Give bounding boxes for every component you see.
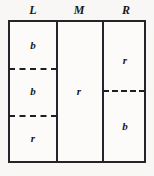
dashed-divider-left-lower (9, 115, 57, 117)
cell-label-left-2: b (24, 84, 42, 98)
column-header-right: R (116, 2, 136, 18)
dashed-divider-right (103, 90, 145, 92)
cell-label-middle-1: r (70, 84, 88, 98)
diagram-canvas: L M R b b r r r b (0, 0, 154, 176)
dashed-divider-left-upper (9, 68, 57, 70)
cell-label-left-1: b (24, 38, 42, 52)
column-header-middle: M (69, 2, 89, 18)
column-divider-left-middle (56, 20, 58, 163)
column-header-left: L (23, 2, 43, 18)
cell-label-left-3: r (24, 131, 42, 145)
cell-label-right-2: b (116, 119, 134, 133)
cell-label-right-1: r (116, 53, 134, 67)
